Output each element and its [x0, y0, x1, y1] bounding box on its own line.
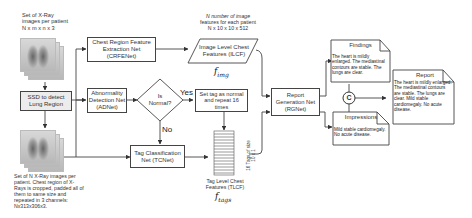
tlcf-side-label: 16 Tags of size 10 x 1	[246, 133, 257, 177]
ssd-lung-detection-box: SSD to detect Lung Region	[20, 91, 72, 111]
caption-line: N x m x n x 3	[22, 25, 82, 31]
box-line: Set tag as normal	[200, 91, 244, 98]
impressions-text: Mild stable cardiomegaly. No acute disea…	[334, 127, 388, 138]
concat-symbol: C	[343, 94, 355, 102]
box-line: Detection Net	[89, 97, 125, 104]
set-tag-normal-box: Set tag as normal and repeat 16 times	[195, 89, 248, 112]
xray-image	[20, 130, 56, 164]
yes-label: Yes	[180, 88, 193, 97]
box-line: (ADNet)	[89, 104, 125, 111]
box-line: Lung Region	[27, 101, 64, 108]
caption-line: N x 10 x 10 x 512	[192, 25, 264, 31]
adnet-box: Abnormality Detection Net (ADNet)	[87, 88, 127, 113]
box-line: times	[200, 104, 244, 111]
is-normal-decision: Is Normal?	[140, 93, 180, 107]
rgnet-box: Report Generation Net (RGNet)	[271, 88, 320, 116]
findings-text: The heart is mildly enlarged. The medias…	[332, 54, 388, 76]
box-line: Image Level Chest	[196, 44, 252, 51]
box-line: (RGNet)	[276, 106, 315, 113]
box-line: SSD to detect	[27, 94, 64, 101]
box-line: Net (TCNet)	[134, 157, 181, 164]
input-xray-caption: Set of X-Ray images per patient N x m x …	[22, 12, 82, 31]
cropped-xray-caption: Set of N X-Ray images per patient. Chest…	[14, 173, 94, 209]
box-line: Tag Classification	[134, 150, 181, 157]
findings-title: Findings	[331, 42, 390, 48]
f-tags-symbol: ftags	[215, 191, 231, 203]
crfenet-box: Chest Region Feature Extraction Net (CRF…	[87, 37, 156, 62]
caption-line: Nx313x306x3.	[14, 203, 94, 209]
f-subscript: img	[217, 71, 228, 78]
box-line: Generation Net	[276, 99, 315, 106]
tcnet-box: Tag Classification Net (TCNet)	[130, 145, 185, 168]
decision-line: Normal?	[140, 100, 180, 107]
ilcf-caption: N number of image features for each pati…	[192, 13, 264, 31]
report-title: Report	[400, 72, 450, 78]
box-line: and repeat 16	[200, 97, 244, 104]
xray-image	[20, 38, 56, 72]
ilcf-label: Image Level Chest Features (ILCF)	[196, 44, 252, 58]
box-line: Report	[276, 92, 315, 99]
f-subscript: tags	[218, 196, 231, 203]
box-line: (CRFENet)	[92, 53, 151, 60]
box-line: Chest Region Feature	[92, 39, 151, 46]
f-img-symbol: fimg	[214, 66, 229, 78]
report-text: The heart is mildly enlarged. The medias…	[394, 80, 452, 112]
no-label: No	[162, 125, 172, 134]
box-line: Features (ILCF)	[196, 51, 252, 58]
caption-line: Features (TLCF)	[200, 184, 250, 190]
tlcf-caption: Tag Level Chest Features (TLCF)	[200, 178, 250, 190]
impressions-title: Impressions	[336, 114, 386, 120]
caption-line: 10 x 1	[251, 133, 256, 177]
box-line: Abnormality	[89, 90, 125, 97]
decision-line: Is	[140, 93, 180, 100]
box-line: Extraction Net	[92, 46, 151, 53]
